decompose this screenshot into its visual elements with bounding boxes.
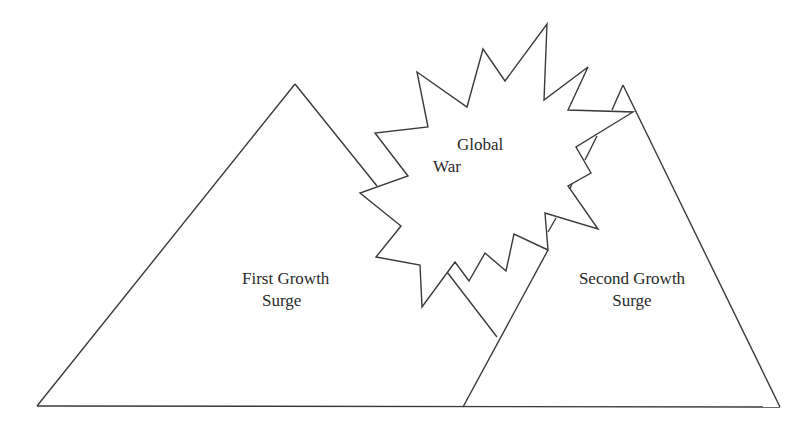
baseline xyxy=(37,406,780,407)
first-growth-surge-label-line-1: First Growth xyxy=(242,268,352,290)
second-growth-surge-label: Second Growth Surge xyxy=(572,268,692,312)
first-growth-surge-label: First Growth Surge xyxy=(242,268,352,312)
first-growth-surge-label-line-2: Surge xyxy=(242,290,352,312)
global-war-label-line-2: War xyxy=(433,156,503,178)
diagram-canvas: Global War [data-name="global-war-label"… xyxy=(0,0,810,428)
second-growth-surge-label-line-2: Surge xyxy=(572,290,692,312)
diagram-svg xyxy=(0,0,810,428)
global-war-label-line-1: Global xyxy=(433,134,503,156)
second-growth-surge-label-line-1: Second Growth xyxy=(572,268,692,290)
global-war-label: Global War xyxy=(433,134,503,178)
